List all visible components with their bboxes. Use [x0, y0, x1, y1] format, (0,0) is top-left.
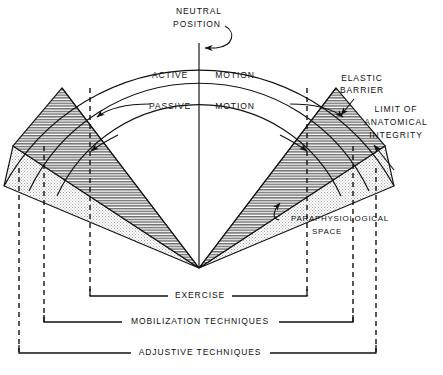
- passive-motion-label: MOTION: [215, 101, 254, 111]
- elastic-barrier-label-line2: BARRIER: [340, 85, 384, 95]
- exercise-bracket: EXERCISE: [90, 289, 307, 300]
- paraphysiological-label-line1: PARAPHYSIOLOGICAL: [291, 214, 389, 223]
- adjustive-bracket: ADJUSTIVE TECHNIQUES: [19, 345, 376, 357]
- diagram-canvas: NEUTRAL POSITION ACTIVE MOTION PASSIVE M…: [0, 0, 443, 375]
- exercise-label: EXERCISE: [175, 290, 225, 300]
- neutral-position-label-line2: POSITION: [173, 19, 221, 29]
- passive-label: PASSIVE: [149, 101, 191, 111]
- neutral-position-annotation: NEUTRAL POSITION: [173, 6, 232, 48]
- neutral-position-arrow: [205, 26, 232, 48]
- adjustive-label: ADJUSTIVE TECHNIQUES: [139, 347, 262, 357]
- active-label: ACTIVE: [152, 70, 188, 80]
- limit-label-line2: ANATOMICAL: [364, 117, 427, 127]
- limit-label-line3: INTEGRITY: [369, 130, 422, 140]
- elastic-barrier-label-line1: ELASTIC: [341, 73, 383, 83]
- mobilization-bracket: MOBILIZATION TECHNIQUES: [44, 315, 353, 326]
- paraphysiological-label-line2: SPACE: [312, 227, 342, 236]
- mobilization-label: MOBILIZATION TECHNIQUES: [131, 316, 269, 326]
- active-motion-label: MOTION: [215, 70, 254, 80]
- neutral-position-label-line1: NEUTRAL: [176, 6, 222, 16]
- limit-label-line1: LIMIT OF: [375, 104, 418, 114]
